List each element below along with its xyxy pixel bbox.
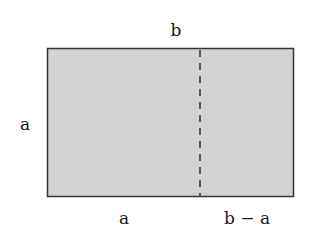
rectangle-diagram: b a a b − a: [0, 0, 309, 235]
label-left-a: a: [20, 114, 30, 134]
label-top-b: b: [171, 20, 182, 40]
label-bottom-a: a: [119, 208, 129, 228]
label-bottom-b-minus-a: b − a: [224, 208, 270, 228]
outer-rectangle: [48, 49, 294, 197]
